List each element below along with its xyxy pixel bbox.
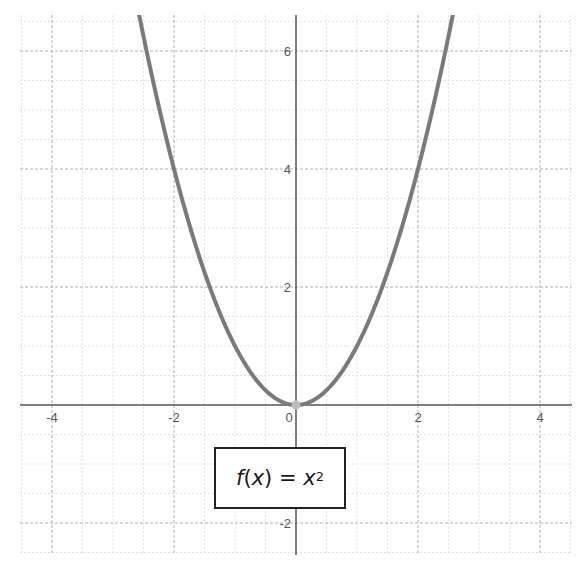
function-name: f [236, 466, 243, 490]
x-tick-label: 0 [285, 410, 292, 425]
vertex-dot [292, 401, 301, 410]
y-tick-label: 4 [284, 162, 291, 177]
vertex-point [292, 401, 301, 410]
function-label-box: f(x) = x2 [214, 447, 346, 509]
y-tick-label: 6 [284, 44, 291, 59]
close-paren: ) [264, 466, 272, 490]
equals-sign: = [279, 466, 297, 490]
y-tick-label: 2 [284, 280, 291, 295]
x-tick-label: 2 [414, 410, 421, 425]
x-tick-label: -2 [168, 410, 180, 425]
function-variable: x [252, 466, 264, 490]
exponent: 2 [316, 469, 324, 484]
y-tick-label: -2 [279, 516, 291, 531]
x-tick-label: 4 [536, 410, 543, 425]
open-paren: ( [243, 466, 251, 490]
rhs-variable: x [303, 466, 315, 490]
x-tick-label: -4 [46, 410, 58, 425]
